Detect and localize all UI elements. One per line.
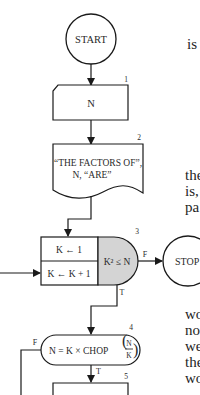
- step5-number: 5: [124, 372, 128, 381]
- prose-bottom-line-4: the: [185, 354, 200, 371]
- decision-condition: N = K × CHOP: [49, 346, 108, 356]
- fraction-numerator: N: [126, 339, 132, 348]
- loop-step-3: K ← 1 K ← K + 1 K² ≤ N 3 F T: [41, 227, 148, 297]
- arrow-2-to-3: [68, 196, 91, 236]
- step2-line2: N, “ARE”: [72, 170, 111, 180]
- loop-false-label: F: [143, 250, 148, 259]
- output-step-2: “THE FACTORS OF”, N, “ARE” 2: [53, 133, 143, 198]
- prose-middle-line-1: the: [185, 167, 200, 184]
- fraction-denominator: K: [126, 351, 132, 360]
- paren-close: ): [133, 341, 138, 359]
- prose-bottom-line-2: no: [185, 322, 200, 339]
- prose-bottom-line-5: wo: [185, 370, 200, 387]
- start-terminal: START: [66, 14, 116, 64]
- prose-middle-line-2: is,: [185, 183, 199, 200]
- step1-number: 1: [124, 75, 128, 84]
- loop-condition: K² ≤ N: [104, 257, 131, 267]
- step3-number: 3: [135, 227, 139, 236]
- loop-true-label: T: [120, 288, 125, 297]
- arrow-3-to-4: [91, 285, 117, 334]
- loop-init: K ← 1: [56, 245, 82, 255]
- stop-label: STOP: [175, 256, 200, 267]
- start-label: START: [75, 34, 107, 45]
- decision-false-label: F: [33, 338, 38, 347]
- decision-step-4: N = K × CHOP ( N K ) 4 F T: [33, 323, 140, 376]
- prose-bottom-line-1: wo: [185, 306, 200, 323]
- stop-terminal: STOP: [163, 236, 200, 286]
- loop-increment: K ← K + 1: [48, 269, 91, 279]
- step2-number: 2: [137, 133, 141, 142]
- flowchart-canvas: START N 1 “THE FACTORS OF”, N, “ARE” 2 K…: [0, 0, 200, 395]
- decision-true-label: T: [96, 367, 101, 376]
- prose-bottom-line-3: we: [185, 338, 200, 355]
- step2-line1: “THE FACTORS OF”,: [54, 158, 142, 168]
- arrow-4-false: [21, 350, 41, 395]
- prose-middle-line-3: pa: [185, 199, 199, 216]
- step4-number: 4: [129, 323, 133, 332]
- prose-top-line: is: [187, 36, 197, 53]
- step1-label: N: [87, 98, 95, 109]
